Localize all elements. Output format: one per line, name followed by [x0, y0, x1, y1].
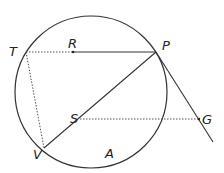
label-g: G	[202, 112, 212, 127]
label-t: T	[9, 44, 18, 59]
point-r	[72, 51, 75, 54]
label-s: S	[70, 111, 78, 126]
label-a: A	[104, 146, 114, 161]
label-p: P	[162, 38, 170, 53]
point-g	[198, 118, 200, 120]
label-r: R	[68, 36, 77, 51]
label-v: V	[33, 147, 43, 162]
segment-vp	[44, 52, 156, 148]
circle-diagram: T R P S G V A	[0, 0, 224, 173]
segment-tv	[26, 52, 44, 148]
tangent-line	[156, 52, 213, 142]
circle	[15, 16, 167, 168]
